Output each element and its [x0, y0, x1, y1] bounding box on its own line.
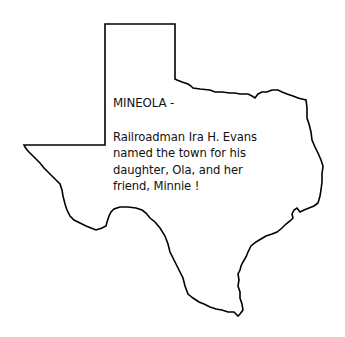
town-title: MINEOLA - — [113, 95, 303, 112]
town-description: Railroadman Ira H. Evans named the town … — [113, 129, 303, 195]
info-caption: MINEOLA - Railroadman Ira H. Evans named… — [113, 95, 303, 195]
